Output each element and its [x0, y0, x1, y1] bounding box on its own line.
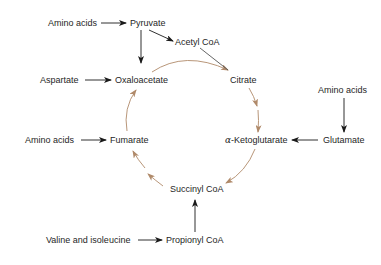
arc-succinyl-to-fumarate-2 — [133, 151, 145, 168]
krebs-cycle-diagram: Amino acids Pyruvate Acetyl CoA Aspartat… — [0, 0, 381, 265]
arc-ketoglutarate-to-succinyl — [226, 149, 255, 183]
node-citrate: Citrate — [230, 75, 257, 85]
node-amino-acids-top: Amino acids — [48, 18, 97, 28]
arrow-acetylcoa-into-cycle — [200, 48, 228, 70]
arc-citrate-to-ketoglutarate-2 — [258, 110, 259, 132]
arc-oxaloacetate-to-citrate — [152, 60, 228, 72]
arrow-pyruvate-to-acetylcoa — [149, 30, 173, 41]
arc-succinyl-to-fumarate-1 — [148, 174, 163, 186]
node-succinyl-coa: Succinyl CoA — [170, 184, 224, 194]
node-alpha-ketoglutarate: α-Ketoglutarate — [225, 135, 288, 145]
node-acetyl-coa: Acetyl CoA — [175, 37, 220, 47]
node-propionyl-coa: Propionyl CoA — [166, 235, 224, 245]
node-fumarate: Fumarate — [110, 135, 149, 145]
node-amino-acids-right: Amino acids — [318, 85, 367, 95]
arc-fumarate-to-oxaloacetate — [126, 90, 136, 131]
node-valine-isoleucine: Valine and isoleucine — [46, 235, 130, 245]
arc-citrate-to-ketoglutarate-1 — [249, 88, 257, 106]
node-aspartate: Aspartate — [40, 75, 79, 85]
node-amino-acids-left: Amino acids — [25, 135, 74, 145]
ketoglutarate-text: -Ketoglutarate — [231, 135, 288, 145]
node-pyruvate: Pyruvate — [130, 18, 166, 28]
node-oxaloacetate: Oxaloacetate — [115, 75, 168, 85]
node-glutamate: Glutamate — [323, 135, 365, 145]
